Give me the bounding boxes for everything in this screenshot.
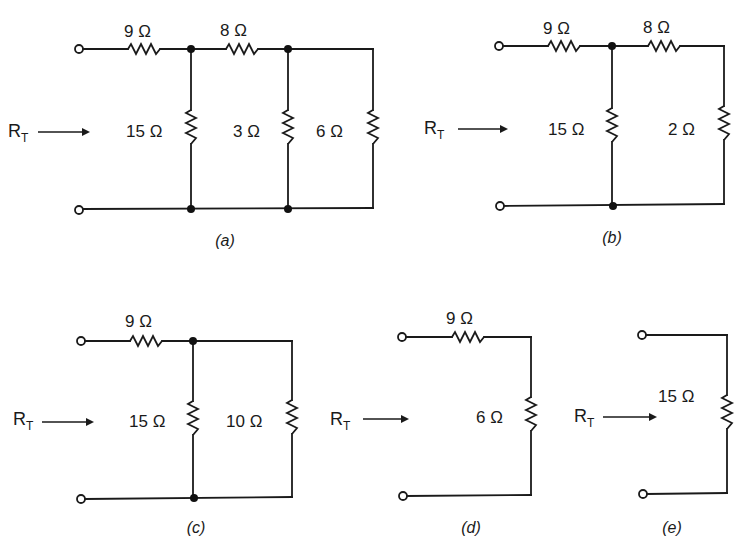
rt-label: RT <box>574 406 595 430</box>
input-terminal-bottom <box>496 202 504 210</box>
resistor-label: 2 Ω <box>668 120 695 139</box>
resistor-3-ohm <box>283 110 293 144</box>
resistor-label: 3 Ω <box>233 122 260 141</box>
resistor-15-ohm <box>722 395 732 429</box>
input-terminal-bottom <box>399 492 407 500</box>
rt-label: RT <box>330 409 351 433</box>
figure-caption: (a) <box>215 232 235 249</box>
resistor-6-ohm <box>526 397 536 431</box>
arrow-head-icon <box>500 125 508 133</box>
input-terminal-top <box>77 337 85 345</box>
resistor-label: 8 Ω <box>220 21 247 40</box>
junction-node <box>190 494 198 502</box>
resistor-9-ohm <box>128 44 160 54</box>
arrow-head-icon <box>401 415 409 423</box>
resistor-9-ohm <box>548 41 580 51</box>
resistor-label: 8 Ω <box>643 18 670 37</box>
junction-node <box>187 205 195 213</box>
figure-caption: (e) <box>662 519 682 536</box>
input-terminal-bottom <box>639 490 647 498</box>
figure-caption: (d) <box>461 519 481 536</box>
arrow-head-icon <box>649 413 657 421</box>
junction-node <box>187 45 195 53</box>
rt-label: RT <box>13 409 34 433</box>
resistor-15-ohm <box>188 401 198 435</box>
circuit-c: 9 Ω 15 Ω 10 Ω RT (c) <box>13 312 297 536</box>
figure-caption: (c) <box>187 519 206 536</box>
rt-label: RT <box>424 118 445 142</box>
circuit-figure: 9 Ω 8 Ω 15 Ω 3 Ω 6 Ω RT (a) 9 Ω 8 Ω 15 <box>0 0 749 548</box>
rt-label: RT <box>8 121 29 145</box>
figure-caption: (b) <box>602 229 622 246</box>
wire <box>85 497 292 499</box>
resistor-label: 15 Ω <box>548 120 584 139</box>
input-terminal-top <box>398 333 406 341</box>
junction-node <box>189 337 197 345</box>
circuit-d: 9 Ω 6 Ω RT (d) <box>330 309 536 536</box>
wire <box>646 493 727 494</box>
input-terminal-top <box>75 45 83 53</box>
resistor-10-ohm <box>287 400 297 434</box>
resistor-label: 9 Ω <box>543 19 570 38</box>
arrow-head-icon <box>86 418 94 426</box>
resistor-label: 9 Ω <box>125 312 152 331</box>
resistor-15-ohm <box>607 108 617 142</box>
circuit-b: 9 Ω 8 Ω 15 Ω 2 Ω RT (b) <box>424 18 729 246</box>
resistor-label: 10 Ω <box>226 412 262 431</box>
resistor-2-ohm <box>719 106 729 140</box>
resistor-label: 15 Ω <box>658 387 694 406</box>
resistor-label: 15 Ω <box>126 122 162 141</box>
input-terminal-top <box>638 331 646 339</box>
circuit-e: 15 Ω RT (e) <box>574 331 732 536</box>
resistor-label: 9 Ω <box>124 22 151 41</box>
resistor-label: 6 Ω <box>316 122 343 141</box>
resistor-9-ohm <box>130 336 162 346</box>
arrow-head-icon <box>82 128 90 136</box>
wire <box>406 495 531 496</box>
resistor-label: 15 Ω <box>129 412 165 431</box>
junction-node <box>284 205 292 213</box>
resistor-label: 6 Ω <box>476 408 503 427</box>
junction-node <box>284 45 292 53</box>
junction-node <box>608 42 616 50</box>
resistor-8-ohm <box>226 44 258 54</box>
wire <box>82 208 373 209</box>
resistor-8-ohm <box>648 41 680 51</box>
input-terminal-bottom <box>77 495 85 503</box>
resistor-15-ohm <box>186 110 196 144</box>
input-terminal-top <box>495 42 503 50</box>
resistor-9-ohm <box>452 332 484 342</box>
resistor-label: 9 Ω <box>446 309 473 328</box>
circuit-a: 9 Ω 8 Ω 15 Ω 3 Ω 6 Ω RT (a) <box>8 21 378 249</box>
junction-node <box>609 202 617 210</box>
resistor-6-ohm <box>368 110 378 144</box>
input-terminal-bottom <box>75 206 83 214</box>
